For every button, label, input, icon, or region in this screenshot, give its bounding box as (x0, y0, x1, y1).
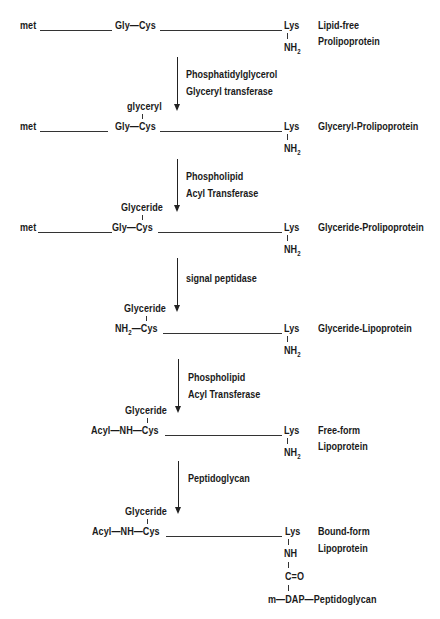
enzyme-label: Phospholipid (186, 170, 243, 182)
reaction-arrow-icon (177, 57, 178, 109)
side-chain-nh2: NH2 (284, 142, 301, 154)
enzyme-label: Peptidoglycan (188, 472, 250, 484)
reaction-arrow-icon (178, 461, 179, 512)
enzyme-label-line2: Glyceryl transferase (186, 85, 273, 97)
enzyme-label: Phosphatidylglycerol (186, 68, 277, 80)
stage-name: Free-form (318, 424, 360, 436)
cys-substituent: glyceryl (127, 100, 162, 112)
bond-line (287, 33, 288, 39)
chain-line (160, 131, 282, 132)
bond-line (287, 235, 288, 241)
stage-name: Glyceride-Prolipoprotein (318, 221, 424, 233)
stage-name-line2: Lipoprotein (318, 440, 368, 452)
enzyme-label-line2: Acyl Transferase (188, 388, 260, 400)
chain-line (160, 30, 282, 31)
bond-line (287, 134, 288, 140)
reaction-arrow-icon (178, 359, 179, 411)
bond-line (288, 539, 289, 545)
stage-name-line2: Lipoprotein (318, 542, 368, 554)
cys-substituent: Glyceride (124, 302, 166, 314)
acyl-nh-cys: Acyl—NH—Cys (91, 424, 159, 436)
c-terminal-lys: Lys (284, 221, 299, 233)
side-chain-nh2: NH2 (284, 446, 301, 458)
enzyme-label-line2: Acyl Transferase (186, 187, 258, 199)
chain-line (165, 435, 282, 436)
cys-substituent: Glyceride (121, 201, 163, 213)
chain-line (40, 30, 112, 31)
bond-line (287, 336, 288, 342)
reaction-arrow-icon (177, 258, 178, 310)
n-terminal-nh2-cys: NH2—Cys (115, 322, 158, 334)
residues-gly-cys: Gly—Cys (115, 120, 156, 132)
side-chain-nh: NH (284, 547, 297, 559)
stage-name: Glyceryl-Prolipoprotein (318, 120, 418, 132)
chain-line (166, 536, 282, 537)
c-terminal-lys: Lys (284, 120, 299, 132)
side-chain-nh2: NH2 (284, 41, 301, 53)
side-chain-nh2: NH2 (284, 344, 301, 356)
reaction-arrow-icon (177, 159, 178, 210)
enzyme-label: Phospholipid (188, 371, 245, 383)
chain-line (38, 232, 112, 233)
side-chain-carbonyl: C=O (285, 570, 304, 582)
c-terminal-lys: Lys (285, 525, 300, 537)
residues-gly-cys: Gly—Cys (112, 221, 153, 233)
bond-line (287, 438, 288, 444)
chain-line (40, 131, 108, 132)
side-chain-nh2: NH2 (284, 243, 301, 255)
c-terminal-lys: Lys (284, 19, 299, 31)
cys-substituent: Glyceride (125, 404, 167, 416)
acyl-nh-cys: Acyl—NH—Cys (92, 525, 160, 537)
c-terminal-lys: Lys (284, 322, 299, 334)
n-terminal-met: met (20, 19, 36, 31)
bond-line (142, 215, 143, 220)
residues-gly-cys: Gly—Cys (115, 19, 156, 31)
bond-line (146, 316, 147, 321)
bond-line (288, 585, 289, 591)
n-terminal-met: met (20, 120, 36, 132)
stage-name-line2: Prolipoprotein (318, 35, 380, 47)
c-terminal-lys: Lys (284, 424, 299, 436)
bond-line (142, 114, 143, 119)
chain-line (158, 232, 282, 233)
m-dap-peptidoglycan-link: m—DAP—Peptidoglycan (268, 593, 377, 605)
enzyme-label: signal peptidase (186, 272, 257, 284)
bond-line (288, 562, 289, 568)
chain-line (163, 333, 282, 334)
n-terminal-met: met (20, 221, 36, 233)
stage-name: Bound-form (318, 525, 370, 537)
stage-name: Lipid-free (318, 19, 359, 31)
stage-name: Glyceride-Lipoprotein (318, 322, 412, 334)
bond-line (147, 519, 148, 524)
bond-line (147, 418, 148, 423)
cys-substituent: Glyceride (125, 505, 167, 517)
